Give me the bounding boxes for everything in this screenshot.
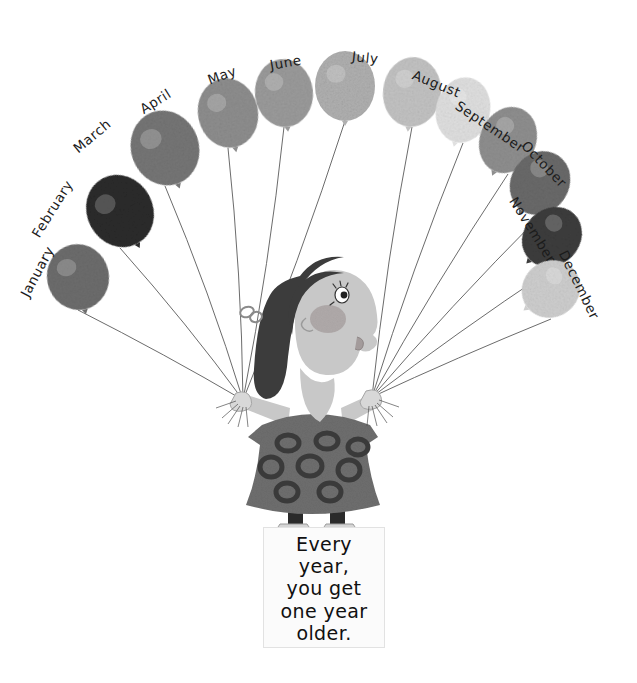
balloon-knot bbox=[405, 126, 411, 132]
hand-right bbox=[360, 390, 382, 410]
month-label-july: July bbox=[351, 48, 379, 67]
balloon-highlight bbox=[326, 65, 345, 83]
illustration-canvas: JanuaryFebruaryMarchAprilMayJuneJulyAugu… bbox=[0, 0, 637, 683]
balloon-body bbox=[191, 73, 264, 154]
girl-figure bbox=[216, 257, 399, 533]
balloon-knot bbox=[342, 121, 348, 126]
quote-line: older. bbox=[296, 622, 351, 644]
pupil bbox=[341, 292, 348, 299]
cheek bbox=[310, 305, 346, 333]
quote-line: one year bbox=[281, 600, 368, 622]
balloon-string bbox=[372, 174, 508, 397]
quote-line: Every bbox=[296, 533, 352, 555]
balloon-string bbox=[372, 127, 412, 397]
neck bbox=[300, 368, 335, 422]
balloon-string bbox=[372, 216, 540, 397]
balloon-july[interactable] bbox=[379, 54, 445, 135]
balloon-april[interactable] bbox=[191, 73, 265, 159]
balloon-body bbox=[380, 54, 445, 130]
quote-line: you get bbox=[287, 577, 362, 599]
balloon-string bbox=[228, 148, 243, 400]
balloon-string bbox=[372, 143, 463, 397]
balloon-knot bbox=[285, 127, 291, 133]
balloon-string bbox=[120, 248, 243, 400]
balloon-string bbox=[165, 186, 243, 400]
quote-box: Everyyear,you getone yearolder. bbox=[263, 527, 385, 648]
quote-line: year, bbox=[299, 555, 349, 577]
